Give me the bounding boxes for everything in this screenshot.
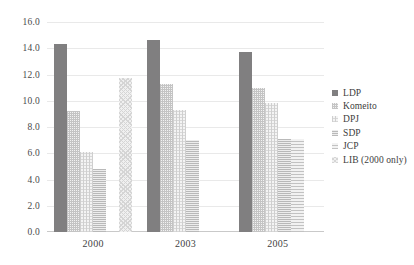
bar (147, 40, 160, 232)
legend-label: DPJ (343, 114, 359, 124)
x-axis-tick-label: 2000 (54, 238, 132, 249)
bar (67, 111, 80, 232)
bar-group (147, 22, 225, 232)
bar (160, 84, 173, 232)
bar (93, 169, 106, 232)
legend-swatch-icon (332, 157, 338, 163)
legend-swatch-icon (332, 143, 338, 149)
y-axis-tick-label: 16.0 (0, 17, 40, 27)
legend-swatch-icon (332, 130, 338, 136)
bar-group (239, 22, 317, 232)
legend-label: LDP (343, 88, 361, 98)
legend-item: SDP (332, 126, 407, 139)
legend-item: LIB (2000 only) (332, 153, 407, 166)
legend-label: JCP (343, 141, 359, 151)
bar (252, 88, 265, 232)
bar (291, 139, 304, 232)
bar (119, 78, 132, 232)
bars (147, 22, 225, 232)
legend-item: JCP (332, 140, 407, 153)
legend-label: Komeito (343, 101, 377, 111)
legend-label: LIB (2000 only) (343, 155, 407, 165)
bar (54, 44, 67, 232)
chart-legend: LDPKomeitoDPJSDPJCPLIB (2000 only) (332, 86, 407, 166)
y-axis-tick-label: 4.0 (0, 175, 40, 185)
y-axis-tick-label: 8.0 (0, 122, 40, 132)
bar (173, 110, 186, 232)
bar-chart: 16.014.012.010.08.06.04.02.00.0 20002003… (0, 0, 414, 265)
y-axis-tick-label: 2.0 (0, 201, 40, 211)
legend-swatch-icon (332, 116, 338, 122)
legend-item: LDP (332, 86, 407, 99)
plot-area (47, 22, 324, 232)
y-axis-tick-label: 14.0 (0, 43, 40, 53)
legend-item: DPJ (332, 113, 407, 126)
bar (80, 152, 93, 232)
bar-group (54, 22, 132, 232)
bar (239, 52, 252, 232)
y-axis-tick-label: 12.0 (0, 70, 40, 80)
y-axis-tick-label: 10.0 (0, 96, 40, 106)
x-axis-tick-label: 2003 (147, 238, 225, 249)
bars (239, 22, 317, 232)
y-axis-tick-label: 6.0 (0, 148, 40, 158)
legend-item: Komeito (332, 99, 407, 112)
bars (54, 22, 132, 232)
y-axis-tick-label: 0.0 (0, 227, 40, 237)
legend-label: SDP (343, 128, 361, 138)
legend-swatch-icon (332, 90, 338, 96)
bar (278, 139, 291, 232)
bar (186, 140, 199, 232)
bar (265, 103, 278, 232)
x-axis-tick-label: 2005 (239, 238, 317, 249)
legend-swatch-icon (332, 103, 338, 109)
